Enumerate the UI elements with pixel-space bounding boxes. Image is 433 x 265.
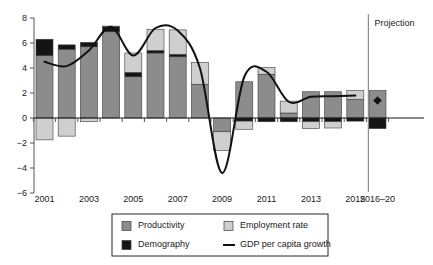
bar-segment-employment-rate bbox=[80, 118, 97, 122]
bar-segment-employment-rate bbox=[58, 118, 75, 136]
bar-segment-employment-rate bbox=[147, 29, 164, 50]
y-tick-label: 4 bbox=[22, 63, 27, 73]
x-tick-label: 2001 bbox=[34, 194, 54, 204]
bar-segment-demography bbox=[302, 118, 319, 122]
x-tick-label: 2005 bbox=[123, 194, 143, 204]
legend-swatch-employment-rate bbox=[224, 222, 233, 231]
legend-swatch-demography bbox=[122, 241, 131, 250]
bar-segment-employment-rate bbox=[36, 118, 53, 140]
y-tick-label: 2 bbox=[22, 88, 27, 98]
x-tick-label: 2016–20 bbox=[360, 194, 395, 204]
bar-segment-productivity bbox=[280, 113, 297, 118]
bar-segment-demography bbox=[325, 118, 342, 122]
projection-label: Projection bbox=[374, 18, 414, 28]
bar-segment-productivity bbox=[36, 56, 53, 119]
bar-segment-demography bbox=[258, 118, 275, 122]
x-tick-label: 2011 bbox=[257, 194, 276, 204]
bar-segment-productivity bbox=[125, 77, 142, 118]
bar-segment-productivity bbox=[347, 99, 364, 118]
legend-label-productivity: Productivity bbox=[138, 220, 185, 230]
bar-segment-employment-rate bbox=[302, 122, 319, 129]
bar-segment-employment-rate bbox=[169, 30, 186, 54]
y-tick-label: −6 bbox=[17, 188, 27, 198]
bar-segment-demography bbox=[169, 54, 186, 57]
x-tick-label: 2007 bbox=[168, 194, 188, 204]
legend-label-demography: Demography bbox=[138, 239, 190, 249]
y-tick-label: −4 bbox=[17, 163, 27, 173]
x-tick-label: 2009 bbox=[212, 194, 232, 204]
bar-segment-productivity bbox=[258, 74, 275, 118]
bar-segment-employment-rate bbox=[214, 132, 231, 151]
legend-label-gdp-per-capita-growth: GDP per capita growth bbox=[240, 239, 331, 249]
bar-segment-demography bbox=[58, 45, 75, 49]
y-tick-label: 0 bbox=[22, 113, 27, 123]
legend-label-employment-rate: Employment rate bbox=[240, 220, 308, 230]
chart-legend: ProductivityEmployment rateDemographyGDP… bbox=[112, 214, 331, 256]
bar-segment-productivity bbox=[80, 47, 97, 118]
y-tick-label: −2 bbox=[17, 138, 27, 148]
bar-segment-productivity bbox=[103, 32, 120, 118]
chart-container: −6−4−202468 2001200320052007200920112013… bbox=[0, 0, 433, 265]
bar-segment-productivity bbox=[58, 49, 75, 118]
bar-segment-employment-rate bbox=[236, 121, 253, 129]
bar-segment-productivity bbox=[147, 53, 164, 118]
bar-segment-productivity bbox=[214, 118, 231, 132]
bar-segment-productivity bbox=[169, 57, 186, 118]
bar-segment-demography bbox=[369, 118, 386, 129]
y-axis: −6−4−202468 bbox=[17, 13, 34, 198]
bar-segment-demography bbox=[36, 39, 53, 55]
bar-segment-employment-rate bbox=[325, 122, 342, 128]
x-tick-label: 2013 bbox=[301, 194, 321, 204]
y-tick-label: 8 bbox=[22, 13, 27, 23]
legend-swatch-productivity bbox=[122, 222, 131, 231]
bar-segment-demography bbox=[280, 118, 297, 122]
bar-segment-demography bbox=[125, 72, 142, 76]
y-tick-label: 6 bbox=[22, 38, 27, 48]
gdp-growth-decomposition-chart: −6−4−202468 2001200320052007200920112013… bbox=[0, 0, 433, 265]
bar-segment-demography bbox=[147, 51, 164, 54]
x-tick-label: 2003 bbox=[79, 194, 99, 204]
